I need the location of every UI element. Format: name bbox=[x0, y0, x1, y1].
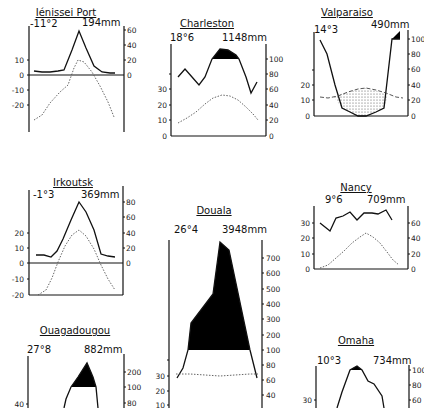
svg-text:0: 0 bbox=[411, 265, 416, 274]
svg-text:80: 80 bbox=[126, 198, 136, 207]
svg-text:40: 40 bbox=[266, 391, 276, 400]
svg-text:10: 10 bbox=[14, 56, 24, 65]
svg-text:-20: -20 bbox=[12, 101, 24, 110]
svg-text:0: 0 bbox=[269, 132, 274, 141]
svg-text:0: 0 bbox=[19, 259, 24, 268]
svg-text:80: 80 bbox=[127, 399, 137, 408]
svg-text:60: 60 bbox=[412, 396, 422, 405]
svg-text:60: 60 bbox=[411, 219, 421, 228]
chart-ienissei-port: Iénissei Port -11°2 194mm 10 0 -10 -20 6… bbox=[0, 0, 140, 140]
svg-text:80: 80 bbox=[269, 70, 279, 79]
svg-text:10: 10 bbox=[300, 250, 310, 259]
svg-text:60: 60 bbox=[269, 85, 279, 94]
svg-text:80: 80 bbox=[411, 50, 421, 59]
svg-text:100: 100 bbox=[411, 35, 424, 44]
chart-omaha: Omaha 10°3 734mm 30 100 80 60 bbox=[280, 320, 424, 408]
svg-text:60: 60 bbox=[126, 213, 136, 222]
svg-text:80: 80 bbox=[412, 381, 422, 390]
svg-text:20: 20 bbox=[155, 387, 165, 396]
chart-douala: Douala 26°4 3948mm 30 20 10 700 600 500 … bbox=[150, 190, 280, 408]
svg-text:20: 20 bbox=[411, 250, 421, 259]
chart-irkoutsk: Irkoutsk -1°3 369mm 20 10 0 -10 -20 80 6… bbox=[0, 140, 140, 300]
svg-text:60: 60 bbox=[127, 26, 137, 35]
climate-diagram: 30 20 10 0 100 80 60 40 20 0 bbox=[140, 0, 280, 140]
svg-text:0: 0 bbox=[162, 132, 167, 141]
svg-text:40: 40 bbox=[269, 101, 279, 110]
svg-text:0: 0 bbox=[19, 71, 24, 80]
svg-text:10: 10 bbox=[14, 244, 24, 253]
climate-diagram: 20 10 0 -10 -20 80 60 40 20 0 bbox=[0, 140, 140, 300]
chart-valparaiso: Valparaiso 14°3 490mm 20 10 0 100 80 60 … bbox=[280, 0, 424, 140]
svg-text:40: 40 bbox=[127, 41, 137, 50]
svg-text:60: 60 bbox=[411, 65, 421, 74]
svg-text:700: 700 bbox=[266, 254, 281, 263]
svg-text:20: 20 bbox=[300, 81, 310, 90]
climate-diagram: 30 100 80 60 bbox=[280, 320, 424, 408]
svg-text:200: 200 bbox=[127, 368, 142, 377]
svg-text:100: 100 bbox=[412, 366, 424, 375]
svg-text:20: 20 bbox=[127, 56, 137, 65]
svg-text:0: 0 bbox=[411, 112, 416, 121]
svg-text:-20: -20 bbox=[12, 291, 24, 300]
chart-ouagadougou: Ouagadougou 27°8 882mm 40 200 100 80 bbox=[0, 310, 150, 408]
svg-text:20: 20 bbox=[269, 116, 279, 125]
svg-text:20: 20 bbox=[126, 244, 136, 253]
svg-text:40: 40 bbox=[14, 400, 24, 408]
svg-text:30: 30 bbox=[155, 372, 165, 381]
svg-text:400: 400 bbox=[266, 300, 281, 309]
climate-diagram: 30 20 10 0 60 40 20 0 bbox=[280, 170, 424, 290]
svg-text:200: 200 bbox=[266, 331, 281, 340]
svg-text:20: 20 bbox=[157, 101, 167, 110]
svg-text:-10: -10 bbox=[12, 86, 24, 95]
svg-text:20: 20 bbox=[411, 96, 421, 105]
svg-text:30: 30 bbox=[300, 219, 310, 228]
climate-diagram: 20 10 0 100 80 60 40 20 0 bbox=[280, 0, 424, 140]
svg-text:80: 80 bbox=[266, 361, 276, 370]
svg-text:60: 60 bbox=[266, 376, 276, 385]
svg-text:30: 30 bbox=[302, 396, 312, 405]
svg-text:0: 0 bbox=[126, 259, 131, 268]
svg-text:-10: -10 bbox=[12, 275, 24, 284]
svg-text:500: 500 bbox=[266, 285, 281, 294]
svg-text:10: 10 bbox=[155, 401, 165, 408]
climate-diagram: 40 200 100 80 bbox=[0, 310, 150, 408]
chart-nancy: Nancy 9°6 709mm 30 20 10 0 60 40 20 0 bbox=[280, 170, 424, 290]
svg-text:10: 10 bbox=[300, 96, 310, 105]
svg-text:100: 100 bbox=[266, 346, 281, 355]
chart-charleston: Charleston 18°6 1148mm 30 20 10 0 100 80… bbox=[140, 0, 280, 140]
svg-text:600: 600 bbox=[266, 269, 281, 278]
svg-text:0: 0 bbox=[305, 112, 310, 121]
svg-text:20: 20 bbox=[300, 234, 310, 243]
svg-text:10: 10 bbox=[157, 116, 167, 125]
climate-diagram: 30 20 10 700 600 500 400 300 200 100 80 … bbox=[150, 190, 280, 408]
svg-text:0: 0 bbox=[127, 71, 132, 80]
svg-text:30: 30 bbox=[157, 85, 167, 94]
svg-text:40: 40 bbox=[411, 81, 421, 90]
svg-text:0: 0 bbox=[305, 265, 310, 274]
svg-text:100: 100 bbox=[127, 383, 142, 392]
svg-text:40: 40 bbox=[411, 234, 421, 243]
svg-text:20: 20 bbox=[14, 229, 24, 238]
svg-text:40: 40 bbox=[126, 229, 136, 238]
svg-text:300: 300 bbox=[266, 315, 281, 324]
climate-diagram: 10 0 -10 -20 60 40 20 0 bbox=[0, 0, 140, 140]
